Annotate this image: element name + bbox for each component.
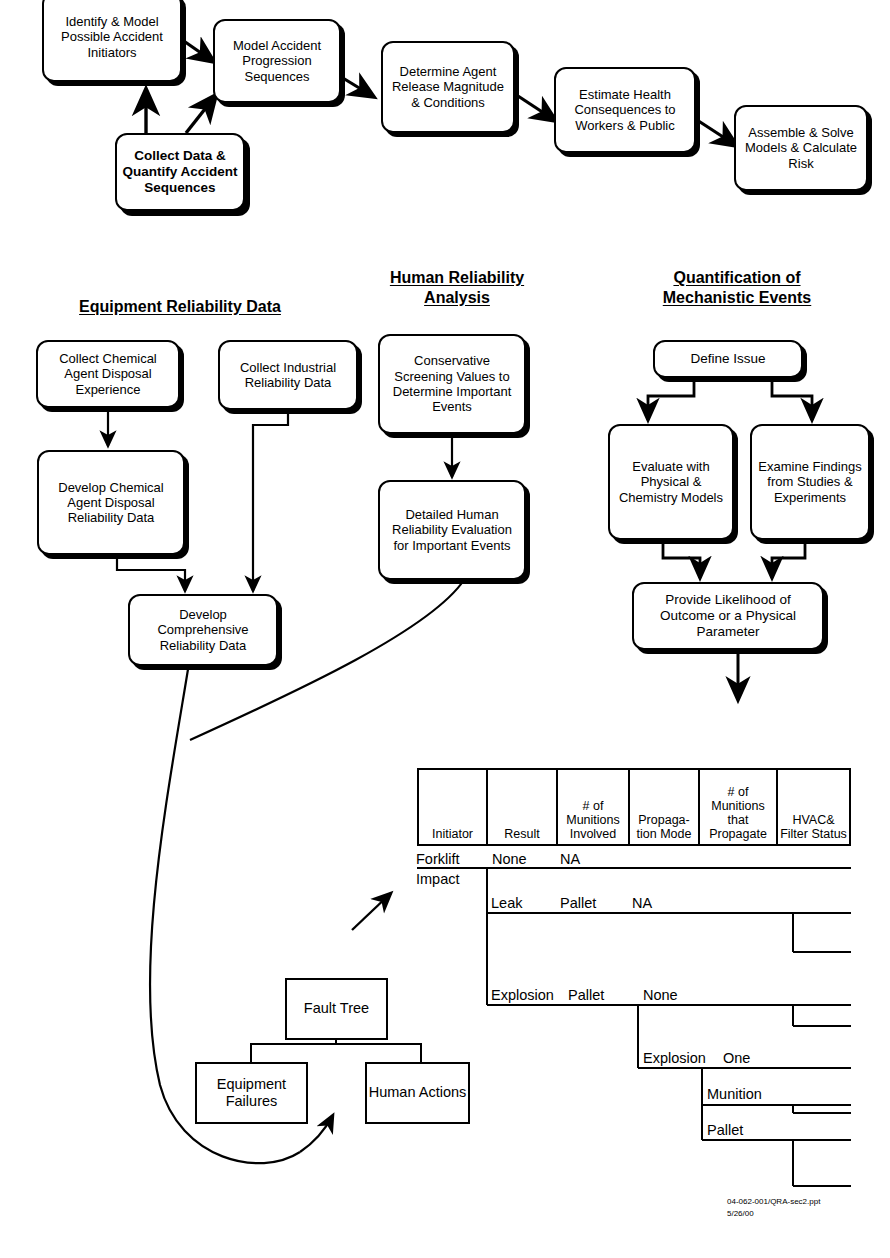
event-tree-label-munitions-na-1: NA xyxy=(560,851,580,867)
process-box-develop-chemical-agent[interactable]: Develop Chemical Agent Disposal Reliabil… xyxy=(37,450,185,555)
label-text: None xyxy=(643,987,678,1003)
section-heading-quantification-mechanistic-events: Quantification of Mechanistic Events xyxy=(620,268,854,308)
event-tree-label-propagate-one: One xyxy=(723,1050,750,1066)
fault-tree-box-label: Fault Tree xyxy=(304,1000,369,1017)
process-box-label: Develop Comprehensive Reliability Data xyxy=(130,607,276,653)
label-text: Explosion xyxy=(491,987,554,1003)
fault-tree-box-label: Human Actions xyxy=(369,1084,467,1101)
event-tree-column-munitions-propagate: # of Munitions that Propagate xyxy=(699,768,777,846)
event-tree-column-propagation-mode: Propaga- tion Mode xyxy=(629,768,699,846)
column-header-label: Result xyxy=(504,827,539,841)
footer-line-1: 04-062-001/QRA-sec2.ppt xyxy=(727,1196,820,1208)
label-text: None xyxy=(492,851,527,867)
event-tree-header-table: Initiator Result # of Munitions Involved… xyxy=(417,768,851,846)
process-box-model-progression[interactable]: Model Accident Progression Sequences xyxy=(213,19,341,103)
label-text: Impact xyxy=(416,871,460,887)
process-box-label: Conservative Screening Values to Determi… xyxy=(380,353,524,414)
fault-tree-box-equipment-failures[interactable]: Equipment Failures xyxy=(195,1062,308,1124)
label-text: Leak xyxy=(491,895,522,911)
event-tree-label-forklift: Forklift xyxy=(416,851,460,867)
process-box-label: Estimate Health Consequences to Workers … xyxy=(556,87,694,133)
process-box-label: Examine Findings from Studies & Experime… xyxy=(752,459,868,505)
section-heading-equipment-reliability-data: Equipment Reliability Data xyxy=(30,297,330,317)
fault-tree-box-human-actions[interactable]: Human Actions xyxy=(365,1062,470,1124)
process-box-label: Model Accident Progression Sequences xyxy=(215,38,339,84)
section-heading-line1: Quantification of xyxy=(673,269,800,286)
process-box-label: Assemble & Solve Models & Calculate Risk xyxy=(736,125,866,171)
column-header-label: # of Munitions that Propagate xyxy=(700,785,776,841)
process-box-collect-chemical-agent[interactable]: Collect Chemical Agent Disposal Experien… xyxy=(36,340,180,408)
process-box-label: Detailed Human Reliability Evaluation fo… xyxy=(380,507,524,553)
column-header-label: Initiator xyxy=(432,827,473,841)
process-box-label: Define Issue xyxy=(686,351,769,367)
process-box-assemble-solve[interactable]: Assemble & Solve Models & Calculate Risk xyxy=(734,105,868,191)
process-box-examine-findings[interactable]: Examine Findings from Studies & Experime… xyxy=(750,424,870,540)
column-header-label: Propaga- tion Mode xyxy=(630,813,698,841)
process-box-label: Collect Industrial Reliability Data xyxy=(220,360,356,391)
label-text: Pallet xyxy=(707,1122,743,1138)
process-box-estimate-health[interactable]: Estimate Health Consequences to Workers … xyxy=(554,67,696,153)
event-tree-column-result: Result xyxy=(487,768,557,846)
column-header-label: HVAC& Filter Status xyxy=(778,813,849,841)
process-box-detailed-human-reliability[interactable]: Detailed Human Reliability Evaluation fo… xyxy=(378,480,526,580)
diagram-canvas: Identify & Model Possible Accident Initi… xyxy=(0,0,890,1258)
event-tree-column-initiator: Initiator xyxy=(417,768,487,846)
label-text: NA xyxy=(632,895,652,911)
process-box-evaluate-physical[interactable]: Evaluate with Physical & Chemistry Model… xyxy=(608,424,734,540)
process-box-develop-comprehensive[interactable]: Develop Comprehensive Reliability Data xyxy=(128,594,278,666)
fault-tree-box-top[interactable]: Fault Tree xyxy=(285,978,388,1040)
section-heading-line1: Human Reliability xyxy=(390,269,524,286)
event-tree-label-result-none: None xyxy=(492,851,527,867)
section-heading-line2: Analysis xyxy=(424,289,490,306)
process-box-identify-model[interactable]: Identify & Model Possible Accident Initi… xyxy=(42,0,182,82)
event-tree-label-propagation-none: None xyxy=(643,987,678,1003)
label-text: Munition xyxy=(707,1086,762,1102)
event-tree-label-propagate-pallet: Pallet xyxy=(707,1122,743,1138)
label-text: Forklift xyxy=(416,851,460,867)
event-tree-label-munitions-pallet-2: Pallet xyxy=(568,987,604,1003)
label-text: Pallet xyxy=(568,987,604,1003)
event-tree-label-impact: Impact xyxy=(416,871,460,887)
event-tree-column-hvac-filter-status: HVAC& Filter Status xyxy=(777,768,851,846)
label-text: Explosion xyxy=(643,1050,706,1066)
footer-line-2: 5/26/00 xyxy=(727,1208,820,1220)
process-box-determine-agent-release[interactable]: Determine Agent Release Magnitude & Cond… xyxy=(381,41,515,133)
event-tree-column-munitions-involved: # of Munitions Involved xyxy=(557,768,629,846)
label-text: NA xyxy=(560,851,580,867)
label-text: One xyxy=(723,1050,750,1066)
fault-tree-box-label: Equipment Failures xyxy=(197,1076,306,1111)
process-box-label: Determine Agent Release Magnitude & Cond… xyxy=(383,64,513,110)
process-box-label: Develop Chemical Agent Disposal Reliabil… xyxy=(39,480,183,526)
process-box-provide-likelihood[interactable]: Provide Likelihood of Outcome or a Physi… xyxy=(632,582,824,650)
event-tree-label-munitions-pallet-1: Pallet xyxy=(560,895,596,911)
footer-source-note: 04-062-001/QRA-sec2.ppt 5/26/00 xyxy=(727,1196,820,1219)
process-box-collect-industrial[interactable]: Collect Industrial Reliability Data xyxy=(218,340,358,410)
event-tree-label-result-leak: Leak xyxy=(491,895,522,911)
event-tree-label-propagation-explosion: Explosion xyxy=(643,1050,706,1066)
event-tree-label-propagation-na: NA xyxy=(632,895,652,911)
process-box-label: Collect Chemical Agent Disposal Experien… xyxy=(38,351,178,397)
section-heading-line1: Equipment Reliability Data xyxy=(79,298,281,315)
event-tree-label-propagate-munition: Munition xyxy=(707,1086,762,1102)
event-tree-label-result-explosion: Explosion xyxy=(491,987,554,1003)
process-box-label: Evaluate with Physical & Chemistry Model… xyxy=(610,459,732,505)
process-box-define-issue[interactable]: Define Issue xyxy=(653,340,803,378)
label-text: Pallet xyxy=(560,895,596,911)
section-heading-line2: Mechanistic Events xyxy=(663,289,812,306)
column-header-label: # of Munitions Involved xyxy=(558,799,628,841)
process-box-label: Identify & Model Possible Accident Initi… xyxy=(44,14,180,60)
process-box-conservative-screening[interactable]: Conservative Screening Values to Determi… xyxy=(378,334,526,434)
process-box-label: Provide Likelihood of Outcome or a Physi… xyxy=(634,592,822,640)
process-box-label: Collect Data & Quantify Accident Sequenc… xyxy=(117,148,243,196)
section-heading-human-reliability-analysis: Human Reliability Analysis xyxy=(352,268,562,308)
process-box-collect-data-quantify[interactable]: Collect Data & Quantify Accident Sequenc… xyxy=(115,133,245,211)
